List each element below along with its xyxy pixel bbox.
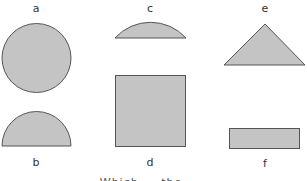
label-e: e (262, 2, 269, 15)
shape-b-semicircle (2, 112, 71, 147)
shape-c-segment (115, 22, 186, 38)
shapes-diagram: a b c d e f Which ... the ... (0, 0, 307, 181)
label-f: f (263, 157, 268, 170)
label-b: b (33, 156, 40, 169)
label-c: c (147, 2, 153, 15)
shape-d-square (116, 76, 186, 147)
shape-f-rectangle (230, 129, 300, 149)
shape-a-circle (2, 24, 71, 93)
caption-text: Which ... the ... (100, 176, 200, 181)
label-d: d (147, 156, 154, 169)
shape-e-triangle (224, 24, 305, 65)
label-a: a (33, 2, 40, 15)
